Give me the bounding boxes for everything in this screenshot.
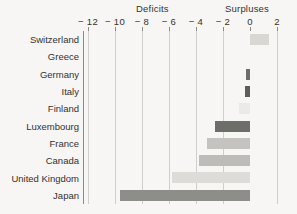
category-label-luxembourg: Luxembourg: [0, 118, 79, 135]
chart-row: [83, 31, 297, 48]
category-label-text: Japan: [53, 190, 79, 201]
x-tick-label-neg12: − 12: [78, 16, 98, 27]
chart-row: [83, 66, 297, 83]
bar-finland: [239, 103, 250, 114]
category-label-text: Italy: [62, 86, 79, 97]
category-label-canada: Canada: [0, 152, 79, 169]
bar-germany: [246, 69, 250, 80]
category-label-text: Greece: [48, 51, 79, 62]
chart-row: [83, 100, 297, 117]
category-label-text: France: [49, 138, 79, 149]
chart-row: [83, 48, 297, 65]
deficits-surpluses-bar-chart: Deficits Surpluses − 12− 10− 8− 6− 4− 20…: [0, 0, 297, 214]
category-label-text: Finland: [48, 103, 79, 114]
bar-switzerland: [250, 34, 269, 45]
category-label-switzerland: Switzerland: [0, 31, 79, 48]
category-label-italy: Italy: [0, 83, 79, 100]
category-label-text: Switzerland: [30, 34, 79, 45]
chart-row: [83, 169, 297, 186]
x-tick-label-neg8: − 8: [135, 16, 149, 27]
bar-japan: [120, 190, 250, 201]
chart-row: [83, 135, 297, 152]
category-label-text: Germany: [40, 69, 79, 80]
x-tick-label-neg6: − 6: [162, 16, 176, 27]
chart-row: [83, 152, 297, 169]
surpluses-section-heading: Surpluses: [225, 3, 269, 14]
chart-row: [83, 83, 297, 100]
category-label-text: United Kingdom: [11, 173, 79, 184]
bar-italy: [245, 86, 250, 97]
bar-united-kingdom: [172, 172, 250, 183]
x-tick-label-2: 2: [274, 16, 280, 27]
bar-canada: [199, 155, 250, 166]
chart-row: [83, 118, 297, 135]
x-axis-tick-labels: − 12− 10− 8− 6− 4− 202: [0, 16, 297, 29]
category-label-text: Canada: [46, 155, 79, 166]
deficits-section-heading: Deficits: [136, 3, 169, 14]
category-label-france: France: [0, 135, 79, 152]
category-label-japan: Japan: [0, 187, 79, 204]
x-tick-label-neg10: − 10: [105, 16, 125, 27]
category-label-text: Luxembourg: [26, 121, 79, 132]
category-label-finland: Finland: [0, 100, 79, 117]
x-tick-label-0: 0: [247, 16, 253, 27]
category-label-greece: Greece: [0, 48, 79, 65]
category-label-united-kingdom: United Kingdom: [0, 169, 79, 186]
x-tick-label-neg4: − 4: [189, 16, 203, 27]
x-tick-label-neg2: − 2: [216, 16, 230, 27]
category-label-germany: Germany: [0, 66, 79, 83]
bar-france: [207, 138, 250, 149]
plot-area: [83, 31, 297, 204]
chart-row: [83, 187, 297, 204]
bar-luxembourg: [215, 121, 250, 132]
